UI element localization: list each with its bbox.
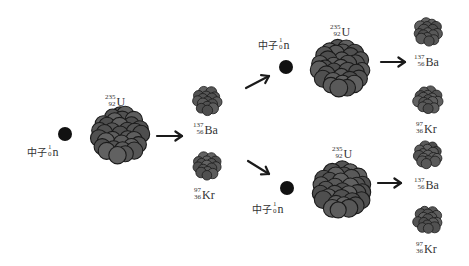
- atomic-number: 92: [109, 101, 116, 108]
- atomic-number: 92: [334, 31, 341, 38]
- barium-2-label: 13756Ba: [414, 50, 439, 68]
- element-symbol: Kr: [202, 189, 215, 201]
- krypton-2-label: 9736Kr: [416, 117, 437, 135]
- atomic-number: 0: [48, 151, 52, 158]
- atomic-number: 36: [416, 248, 423, 255]
- uranium-2-label: 23592U: [330, 20, 350, 38]
- neutron-word: 中子: [27, 148, 47, 158]
- element-symbol: Kr: [424, 243, 437, 255]
- element-symbol: n: [284, 39, 290, 51]
- uranium-2-nucleus-icon: [310, 39, 370, 96]
- neutron-2-icon: [279, 60, 293, 74]
- element-symbol: Kr: [424, 123, 437, 135]
- krypton-1-nucleus-icon: [193, 152, 221, 180]
- arrow-1-icon: [157, 131, 182, 140]
- element-symbol: Ba: [205, 124, 218, 136]
- neutron-word: 中子: [252, 205, 272, 215]
- arrow-2-icon: [246, 75, 269, 88]
- atomic-number: 0: [273, 208, 277, 215]
- barium-1-label: 13756Ba: [193, 118, 218, 136]
- neutron-3-label: 中子10n: [252, 201, 284, 215]
- element-symbol: n: [53, 146, 59, 158]
- krypton-1-label: 9736Kr: [194, 183, 215, 201]
- neutron-1-label: 中子10n: [27, 144, 59, 158]
- atomic-number: 56: [418, 184, 425, 191]
- uranium-3-label: 23592U: [332, 142, 352, 160]
- atomic-number: 0: [279, 44, 283, 51]
- uranium-1-nucleus-icon: [91, 106, 150, 164]
- neutron-word: 中子: [258, 41, 278, 51]
- krypton-3-label: 9736Kr: [416, 237, 437, 255]
- arrow-5-icon: [378, 178, 401, 187]
- atomic-number: 36: [416, 128, 423, 135]
- element-symbol: U: [344, 148, 353, 160]
- element-symbol: Ba: [426, 56, 439, 68]
- atomic-number: 56: [418, 61, 425, 68]
- barium-2-nucleus-icon: [414, 18, 442, 46]
- atomic-number: 92: [336, 153, 343, 160]
- neutron-3-icon: [280, 181, 294, 195]
- atomic-number: 56: [197, 129, 204, 136]
- krypton-3-nucleus-icon: [413, 206, 442, 233]
- element-symbol: n: [278, 203, 284, 215]
- arrow-3-icon: [248, 161, 269, 174]
- element-symbol: Ba: [426, 179, 439, 191]
- barium-3-nucleus-icon: [413, 141, 442, 169]
- neutron-1-icon: [58, 127, 72, 141]
- atomic-number: 36: [194, 194, 201, 201]
- uranium-3-nucleus-icon: [312, 161, 370, 218]
- uranium-1-label: 23592U: [105, 90, 125, 108]
- diagram-canvas: [0, 0, 469, 266]
- fission-diagram: 中子10n23592U13756Ba9736Kr中子10n23592U中子10n…: [0, 0, 469, 266]
- barium-1-nucleus-icon: [193, 86, 222, 115]
- barium-3-label: 13756Ba: [414, 173, 439, 191]
- arrow-4-icon: [381, 57, 405, 66]
- element-symbol: U: [117, 96, 126, 108]
- krypton-2-nucleus-icon: [413, 86, 443, 114]
- neutron-2-label: 中子10n: [258, 37, 290, 51]
- element-symbol: U: [342, 26, 351, 38]
